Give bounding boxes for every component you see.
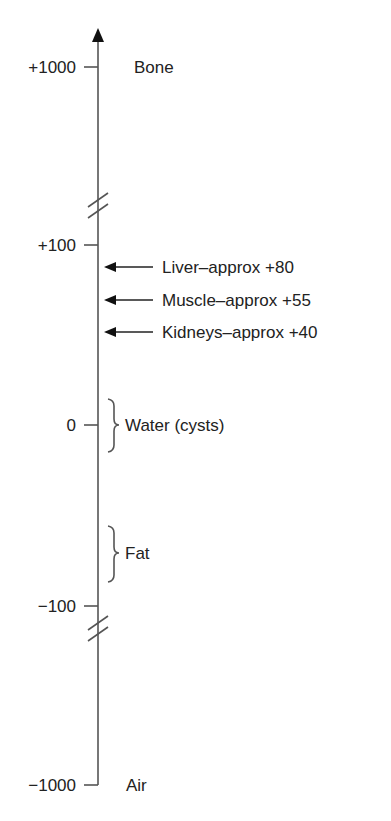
arrow-liver: Liver–approx +80 xyxy=(104,258,294,277)
tick-label-zero: 0 xyxy=(67,416,76,435)
label-fat: Fat xyxy=(125,544,150,563)
brace-fat: Fat xyxy=(108,526,150,582)
arrow-left-icon xyxy=(104,262,116,272)
arrow-left-icon xyxy=(104,295,116,305)
label-liver: Liver–approx +80 xyxy=(162,258,294,277)
arrow-kidneys: Kidneys–approx +40 xyxy=(104,323,317,342)
curly-brace-icon xyxy=(108,526,119,582)
brace-water: Water (cysts) xyxy=(108,399,224,452)
label-muscle: Muscle–approx +55 xyxy=(162,291,311,310)
tick-label-minus-100: −100 xyxy=(38,597,76,616)
tick-label-plus-1000: +1000 xyxy=(28,58,76,77)
arrow-muscle: Muscle–approx +55 xyxy=(104,291,311,310)
curly-brace-icon xyxy=(108,399,119,452)
axis-arrowhead-icon xyxy=(92,28,104,42)
label-air: Air xyxy=(126,776,147,795)
tick-label-minus-1000: −1000 xyxy=(28,776,76,795)
arrow-left-icon xyxy=(104,327,116,337)
tick-label-plus-100: +100 xyxy=(38,236,76,255)
label-water: Water (cysts) xyxy=(125,416,224,435)
label-bone: Bone xyxy=(134,58,174,77)
label-kidneys: Kidneys–approx +40 xyxy=(162,323,317,342)
ct-number-scale-diagram: +1000 +100 0 −100 −1000 Bone Air Liver–a… xyxy=(0,0,391,821)
